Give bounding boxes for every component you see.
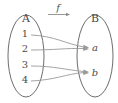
set-b-label: B <box>91 12 99 25</box>
mapping-arrow-3-to-b <box>31 66 84 72</box>
function-label-group: f <box>48 2 70 16</box>
diagram-canvas: f A B 1 2 3 4 a b <box>0 0 118 103</box>
mapping-arrow-4-to-b <box>31 73 84 82</box>
mapping-arrow-2-to-a <box>31 48 84 50</box>
function-arrow-head <box>66 13 70 16</box>
set-a-element-3: 3 <box>22 59 28 70</box>
set-b-element-b: b <box>92 67 98 78</box>
set-b-outline <box>77 15 113 97</box>
set-a-label: A <box>21 12 31 25</box>
set-a-element-1: 1 <box>22 28 28 39</box>
set-a-element-4: 4 <box>22 74 28 85</box>
set-a-element-2: 2 <box>22 43 28 54</box>
function-mapping-diagram: f A B 1 2 3 4 a b <box>0 0 118 103</box>
function-label: f <box>55 2 62 13</box>
set-b-element-a: a <box>92 42 98 53</box>
mapping-arrow-1-to-a <box>31 35 84 47</box>
